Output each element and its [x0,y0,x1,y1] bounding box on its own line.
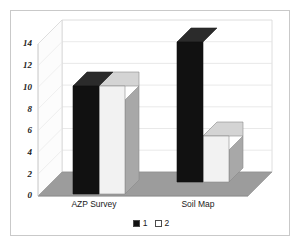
y-tick-10: 10 [8,83,32,92]
y-tick-12: 12 [8,61,32,70]
x-label-azp-survey: AZP Survey [54,199,134,209]
legend-swatch-series1-icon [133,220,140,227]
legend-entry-1[interactable]: 1 [133,219,148,228]
bar-soil-map-series2 [203,122,243,182]
legend-swatch-series2-icon [155,220,162,227]
y-tick-2: 2 [8,170,32,179]
y-tick-14: 14 [8,39,32,48]
chart-canvas [0,0,302,248]
y-tick-0: 0 [8,191,32,200]
x-label-soil-map: Soil Map [158,199,238,209]
y-tick-8: 8 [8,105,32,114]
legend-label-series2: 2 [165,219,170,228]
y-tick-6: 6 [8,126,32,135]
legend-label-series1: 1 [143,219,148,228]
legend-entry-2[interactable]: 2 [155,219,170,228]
y-tick-4: 4 [8,148,32,157]
chart-legend: 1 2 [0,219,302,228]
left-wall [38,20,62,196]
plot-area [0,0,302,248]
